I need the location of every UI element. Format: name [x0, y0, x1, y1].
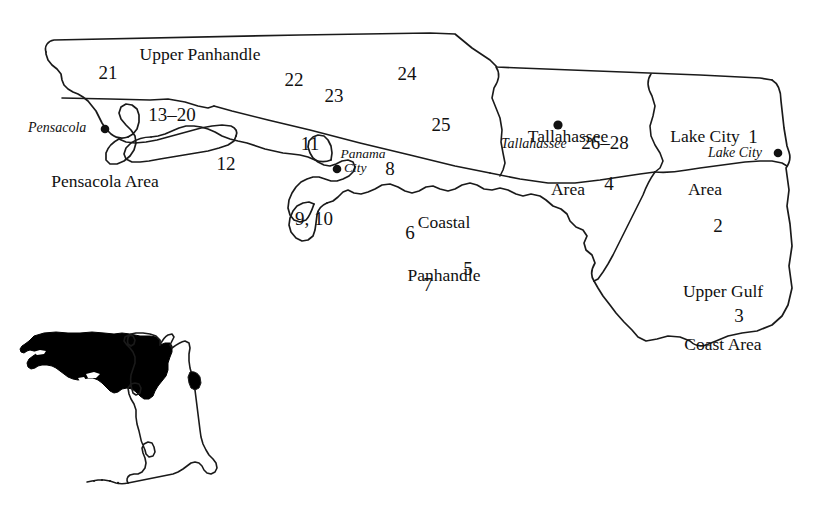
florida-inset: [20, 332, 217, 484]
lake-city-dot: [774, 149, 783, 158]
site-number-26-28: 26–28: [581, 133, 629, 153]
site-number-22: 22: [285, 70, 304, 90]
site-number-2: 2: [713, 216, 723, 236]
city-label-lake-city: Lake City: [708, 146, 762, 161]
border-tallahassee-lakecity: [648, 74, 663, 172]
region-label-lake-city-area-line2: Area: [670, 181, 740, 199]
border-tallahassee-west: [492, 67, 505, 176]
city-label-panama-city-line2: City: [344, 161, 367, 175]
site-number-3: 3: [734, 306, 744, 326]
region-label-upper-gulf-coast-area: Upper Gulf Coast Area: [683, 247, 763, 390]
site-number-6: 6: [405, 223, 415, 243]
site-number-1: 1: [748, 127, 758, 147]
site-number-24: 24: [398, 64, 417, 84]
city-label-pensacola: Pensacola: [28, 121, 86, 136]
region-label-coastal-panhandle-line1: Coastal: [408, 214, 481, 232]
site-number-13-20: 13–20: [148, 105, 196, 125]
site-number-9-10: 9, 10: [295, 209, 333, 229]
panama-city-dot: [333, 165, 342, 174]
site-number-4: 4: [604, 174, 614, 194]
region-label-tallahassee-area: Tallahassee Area: [528, 92, 608, 235]
region-label-lake-city-area: Lake City Area: [670, 92, 740, 235]
region-label-upper-gulf-coast-area-line2: Coast Area: [683, 336, 763, 354]
site-number-25: 25: [432, 115, 451, 135]
region-label-coastal-panhandle: Coastal Panhandle: [408, 178, 481, 321]
regional-map-figure: Upper Panhandle Pensacola Area Coastal P…: [0, 0, 825, 523]
region-label-upper-gulf-coast-area-line1: Upper Gulf: [683, 283, 763, 301]
region-label-lake-city-area-line1: Lake City: [670, 128, 740, 146]
inset-lake-okeechobee: [188, 372, 201, 390]
region-label-tallahassee-area-line2: Area: [528, 181, 608, 199]
site-number-8: 8: [385, 159, 395, 179]
region-label-upper-panhandle: Upper Panhandle: [139, 45, 260, 64]
pensacola-dot: [101, 125, 110, 134]
site-number-21: 21: [99, 63, 118, 83]
site-number-23: 23: [325, 86, 344, 106]
site-number-7: 7: [423, 275, 433, 295]
site-number-11: 11: [301, 134, 319, 154]
site-number-12: 12: [217, 154, 236, 174]
inset-highlight-shading: [20, 332, 172, 399]
region-label-pensacola-area: Pensacola Area: [51, 172, 158, 191]
city-label-tallahassee: Tallahassee: [501, 137, 567, 152]
site-number-5: 5: [463, 259, 473, 279]
